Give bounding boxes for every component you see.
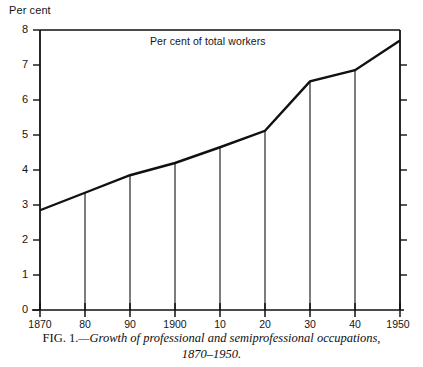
- figure-caption-years: 1870–1950.: [0, 346, 423, 362]
- drop-lines: [85, 70, 355, 310]
- y-tick-label-2: 2: [10, 233, 28, 245]
- x-tick-label-1910: 10: [214, 318, 226, 330]
- y-axis-ticks-left: [33, 30, 40, 310]
- x-tick-label-1900: 1900: [163, 318, 186, 330]
- x-tick-label-1890: 90: [124, 318, 136, 330]
- y-tick-label-1: 1: [10, 268, 28, 280]
- figure-container: Per cent: [0, 0, 423, 367]
- figure-caption-number: FIG. 1.: [43, 331, 79, 345]
- figure-caption-dash: —: [78, 331, 89, 345]
- x-tick-label-1870: 1870: [28, 318, 51, 330]
- y-tick-label-3: 3: [10, 198, 28, 210]
- y-tick-label-7: 7: [10, 58, 28, 70]
- y-tick-label-0: 0: [10, 303, 28, 315]
- plot-annotation-total-workers: Per cent of total workers: [150, 35, 266, 47]
- y-tick-label-5: 5: [10, 128, 28, 140]
- y-tick-label-8: 8: [10, 23, 28, 35]
- x-tick-label-1930: 30: [304, 318, 316, 330]
- plot-area: 8 7 6 5 4 3 2 1 0 1870 80 90 1900 10 20 …: [0, 0, 423, 320]
- x-tick-label-1950: 1950: [386, 318, 409, 330]
- x-tick-label-1940: 40: [349, 318, 361, 330]
- figure-caption: FIG. 1.—Growth of professional and semip…: [0, 330, 423, 362]
- x-tick-label-1920: 20: [259, 318, 271, 330]
- y-tick-label-4: 4: [10, 163, 28, 175]
- figure-caption-text: Growth of professional and semiprofessio…: [89, 331, 380, 345]
- chart-canvas: [0, 0, 423, 320]
- x-tick-label-1880: 80: [79, 318, 91, 330]
- y-axis-ticks-right: [400, 65, 407, 275]
- y-tick-label-6: 6: [10, 93, 28, 105]
